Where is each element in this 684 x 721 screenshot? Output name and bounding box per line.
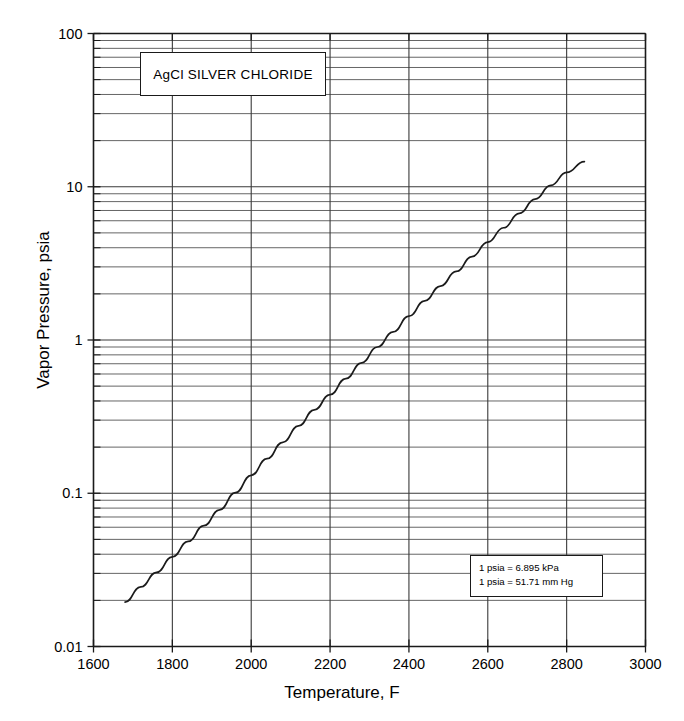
y-tick-label: 0.01	[54, 639, 82, 655]
minor-gridlines	[94, 41, 646, 601]
x-tick-label: 2800	[551, 656, 583, 672]
x-tick-label: 3000	[629, 656, 661, 672]
chart-canvas: 16001800200022002400260028003000 0.010.1…	[0, 0, 684, 721]
chart-title-box: AgCl SILVER CHLORIDE	[140, 52, 326, 96]
x-tick-labels: 16001800200022002400260028003000	[77, 656, 661, 672]
chart-title-text: AgCl SILVER CHLORIDE	[153, 67, 313, 82]
x-tick-label: 2000	[235, 656, 267, 672]
y-tick-label: 100	[58, 26, 82, 42]
conversion-line-kpa: 1 psia = 6.895 kPa	[479, 561, 602, 575]
y-axis-title: Vapor Pressure, psia	[34, 180, 54, 440]
x-tick-label: 2600	[472, 656, 504, 672]
y-tick-label: 1	[74, 332, 82, 348]
vapor-pressure-chart: 16001800200022002400260028003000 0.010.1…	[0, 0, 684, 721]
data-series-curve	[125, 162, 584, 602]
x-tick-label: 2400	[393, 656, 425, 672]
conversion-line-mmhg: 1 psia = 51.71 mm Hg	[479, 575, 602, 589]
x-tick-label: 1800	[156, 656, 188, 672]
y-tick-label: 0.1	[62, 485, 82, 501]
y-tick-labels: 0.010.1110100	[54, 26, 82, 655]
x-tick-label: 2200	[314, 656, 346, 672]
unit-conversion-box: 1 psia = 6.895 kPa 1 psia = 51.71 mm Hg	[470, 555, 603, 597]
vapor-pressure-curve	[125, 162, 584, 602]
x-axis-title: Temperature, F	[0, 683, 684, 703]
y-tick-label: 10	[66, 179, 82, 195]
x-tick-label: 1600	[77, 656, 109, 672]
